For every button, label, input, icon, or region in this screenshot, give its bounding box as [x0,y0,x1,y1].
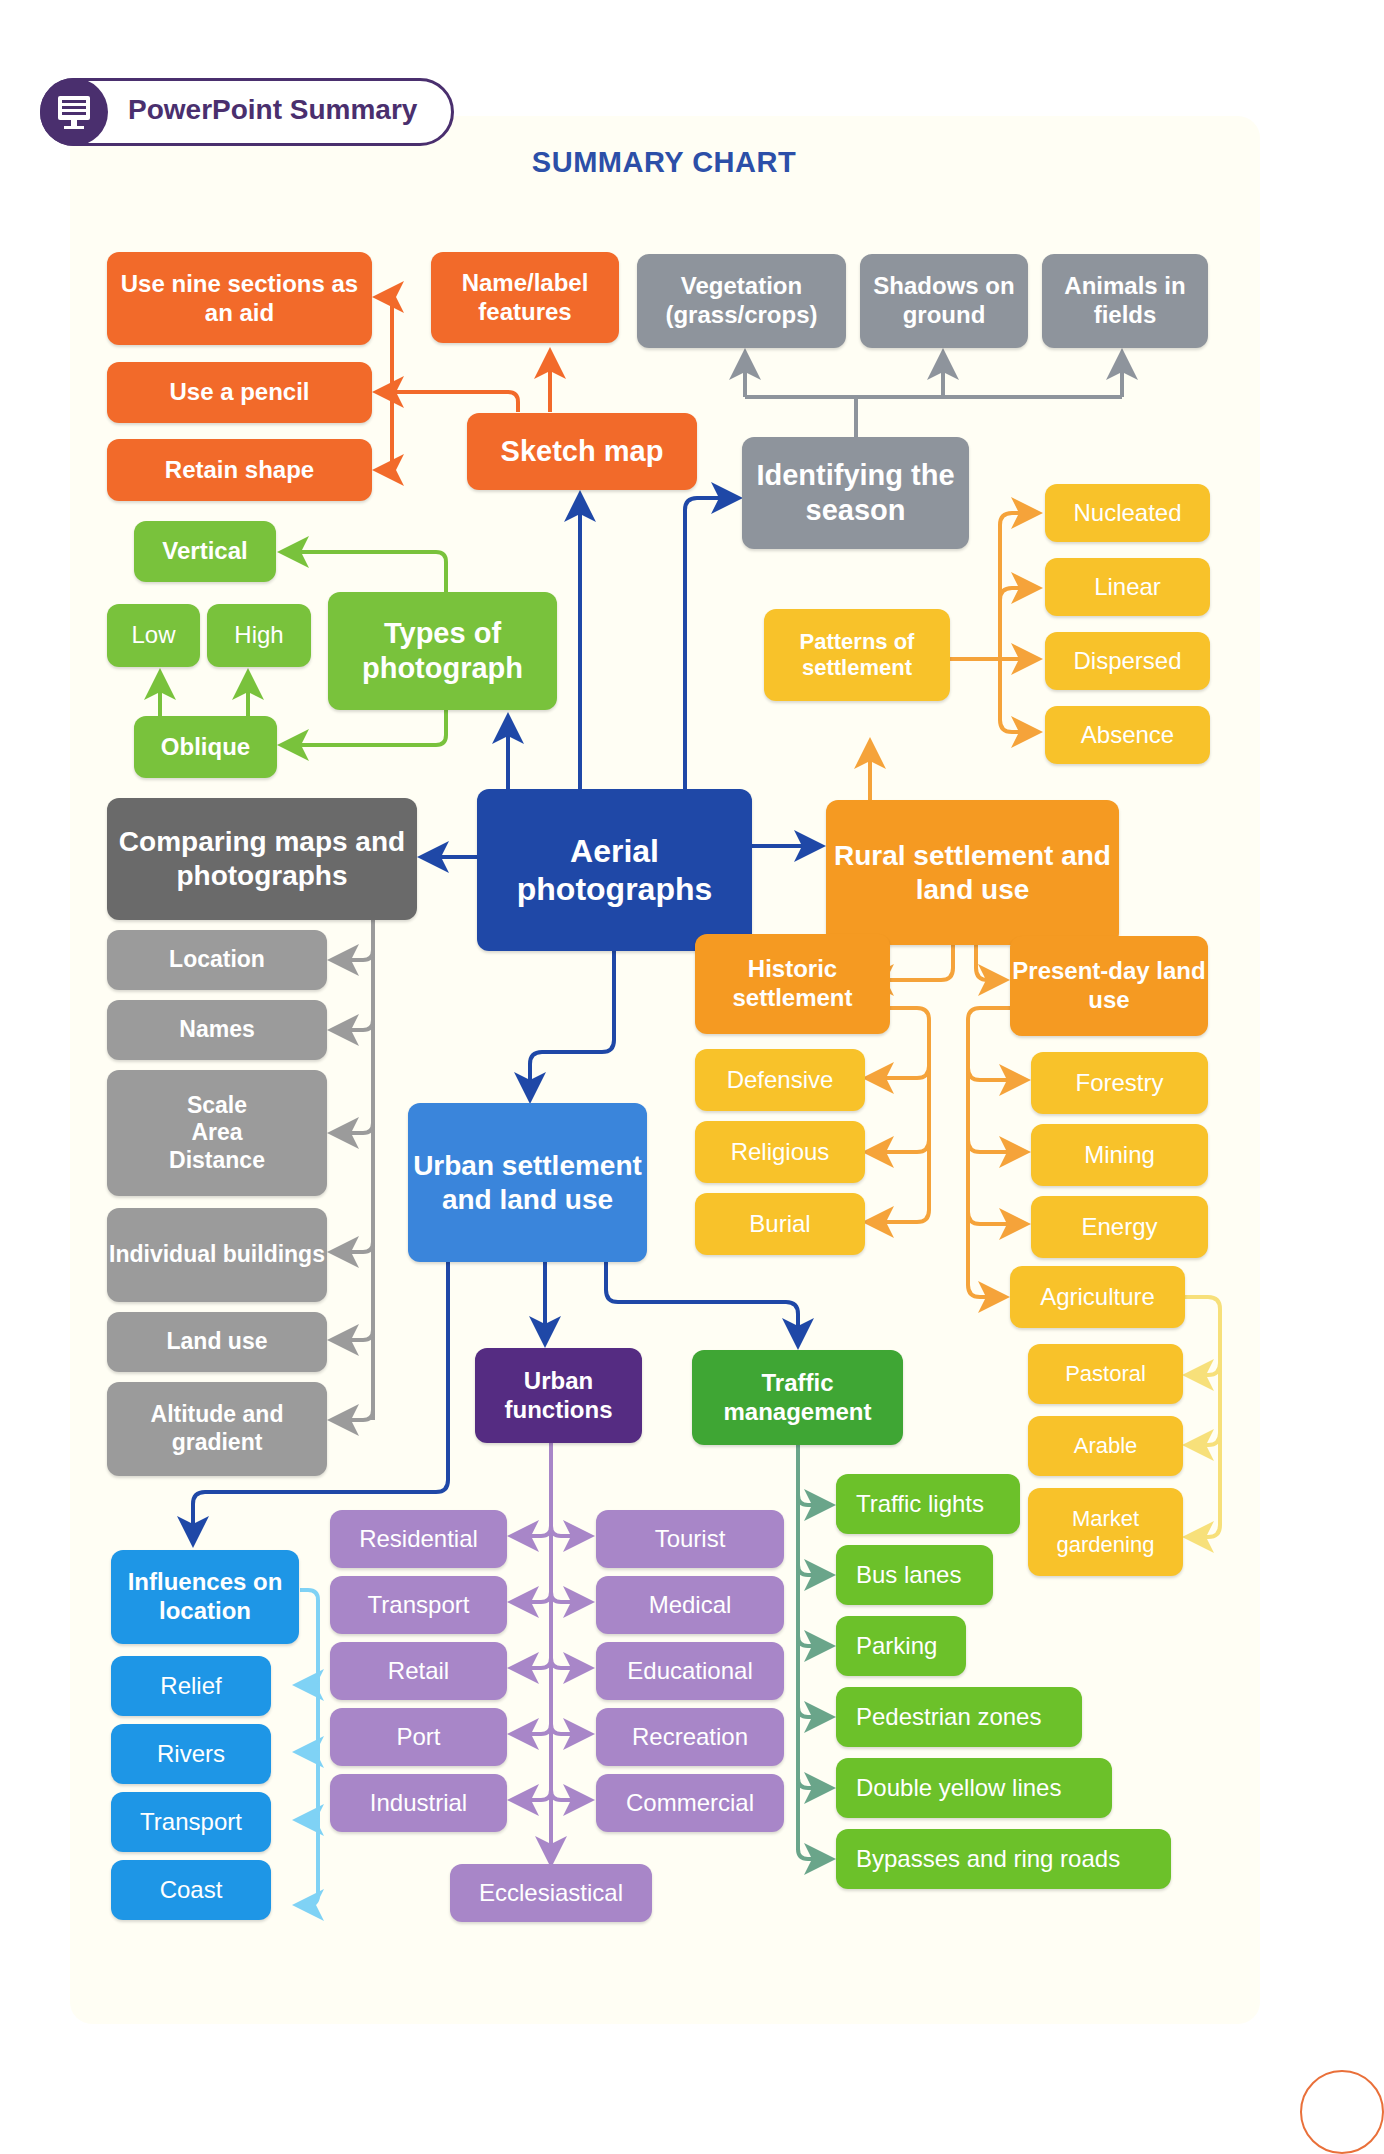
node-energy[interactable]: Energy [1031,1196,1208,1258]
node-industrial[interactable]: Industrial [330,1774,507,1832]
node-comparing-maps[interactable]: Comparing maps and photographs [107,798,417,920]
node-ecclesiastical[interactable]: Ecclesiastical [450,1864,652,1922]
node-present-day-land-use[interactable]: Present-day land use [1010,936,1208,1036]
node-identifying-season[interactable]: Identifying the season [742,437,969,549]
node-use-a-pencil[interactable]: Use a pencil [107,362,372,423]
node-retain-shape[interactable]: Retain shape [107,439,372,501]
node-linear[interactable]: Linear [1045,558,1210,616]
node-pastoral[interactable]: Pastoral [1028,1344,1183,1404]
node-scale-area-distance[interactable]: Scale Area Distance [107,1070,327,1196]
node-altitude-gradient[interactable]: Altitude and gradient [107,1382,327,1476]
node-commercial[interactable]: Commercial [596,1774,784,1832]
node-retail[interactable]: Retail [330,1642,507,1700]
node-historic-settlement[interactable]: Historic settlement [695,934,890,1034]
node-low[interactable]: Low [107,604,200,667]
node-sketch-map[interactable]: Sketch map [467,413,697,490]
node-location[interactable]: Location [107,930,327,990]
node-rivers[interactable]: Rivers [111,1724,271,1784]
node-urban-settlement[interactable]: Urban settlement and land use [408,1103,647,1262]
node-medical[interactable]: Medical [596,1576,784,1634]
node-forestry[interactable]: Forestry [1031,1052,1208,1114]
node-traffic-management[interactable]: Traffic management [692,1350,903,1445]
node-bus-lanes[interactable]: Bus lanes [836,1545,993,1605]
node-defensive[interactable]: Defensive [695,1049,865,1111]
node-port[interactable]: Port [330,1708,507,1766]
node-land-use[interactable]: Land use [107,1312,327,1372]
node-shadows[interactable]: Shadows on ground [860,254,1028,348]
node-individual-buildings[interactable]: Individual buildings [107,1208,327,1302]
node-patterns-of-settlement[interactable]: Patterns of settlement [764,609,950,701]
node-types-of-photograph[interactable]: Types of photograph [328,592,557,710]
node-aerial-photographs[interactable]: Aerial photographs [477,789,752,951]
node-mining[interactable]: Mining [1031,1124,1208,1186]
node-pedestrian-zones[interactable]: Pedestrian zones [836,1687,1082,1747]
node-traffic-lights[interactable]: Traffic lights [836,1474,1020,1534]
node-influences-on-location[interactable]: Influences on location [111,1550,299,1644]
node-rural-settlement[interactable]: Rural settlement and land use [826,800,1119,945]
node-bypasses-ring-roads[interactable]: Bypasses and ring roads [836,1829,1171,1889]
node-vegetation[interactable]: Vegetation (grass/crops) [637,254,846,348]
node-use-nine-sections[interactable]: Use nine sections as an aid [107,252,372,345]
node-oblique[interactable]: Oblique [134,716,277,778]
node-recreation[interactable]: Recreation [596,1708,784,1766]
node-coast[interactable]: Coast [111,1860,271,1920]
node-burial[interactable]: Burial [695,1193,865,1255]
node-absence[interactable]: Absence [1045,706,1210,764]
node-arable[interactable]: Arable [1028,1416,1183,1476]
node-transport-influence[interactable]: Transport [111,1792,271,1852]
node-high[interactable]: High [207,604,311,667]
node-market-gardening[interactable]: Market gardening [1028,1488,1183,1576]
node-nucleated[interactable]: Nucleated [1045,484,1210,542]
node-agriculture[interactable]: Agriculture [1010,1266,1185,1328]
node-double-yellow-lines[interactable]: Double yellow lines [836,1758,1112,1818]
node-tourist[interactable]: Tourist [596,1510,784,1568]
node-educational[interactable]: Educational [596,1642,784,1700]
node-names[interactable]: Names [107,1000,327,1060]
node-name-label-features[interactable]: Name/label features [431,252,619,343]
node-dispersed[interactable]: Dispersed [1045,632,1210,690]
node-residential[interactable]: Residential [330,1510,507,1568]
node-animals[interactable]: Animals in fields [1042,254,1208,348]
node-religious[interactable]: Religious [695,1121,865,1183]
node-transport-function[interactable]: Transport [330,1576,507,1634]
page-corner-circle [1300,2070,1384,2154]
node-parking[interactable]: Parking [836,1616,966,1676]
node-urban-functions[interactable]: Urban functions [475,1348,642,1443]
node-relief[interactable]: Relief [111,1656,271,1716]
node-vertical[interactable]: Vertical [134,521,276,582]
